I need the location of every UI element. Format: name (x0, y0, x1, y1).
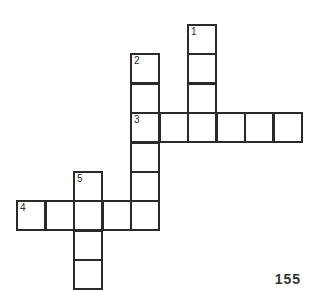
crossword-cell[interactable] (45, 200, 75, 231)
page-number: 155 (275, 271, 301, 287)
crossword-cell[interactable] (130, 142, 160, 173)
crossword-cell[interactable] (216, 112, 246, 143)
crossword-cell[interactable] (130, 83, 160, 114)
crossword-cell[interactable] (102, 200, 132, 231)
clue-number: 2 (134, 55, 140, 67)
clue-number: 1 (191, 26, 197, 38)
crossword-cell[interactable]: 2 (130, 53, 160, 84)
crossword-cell[interactable] (73, 200, 103, 231)
crossword-cell[interactable] (244, 112, 274, 143)
crossword-cell[interactable] (130, 200, 160, 231)
clue-number: 5 (77, 173, 83, 185)
crossword-cell[interactable] (73, 259, 103, 290)
crossword-cell[interactable] (273, 112, 303, 143)
crossword-cell[interactable] (159, 112, 189, 143)
crossword-cell[interactable] (187, 83, 217, 114)
crossword-cell[interactable]: 1 (187, 24, 217, 55)
crossword-cell[interactable]: 3 (130, 112, 160, 143)
crossword-cell[interactable]: 4 (16, 200, 46, 231)
crossword-cell[interactable]: 5 (73, 171, 103, 202)
crossword-cell[interactable] (130, 171, 160, 202)
crossword-cell[interactable] (187, 112, 217, 143)
crossword-cell[interactable] (187, 53, 217, 84)
clue-number: 3 (134, 114, 140, 126)
clue-number: 4 (20, 202, 26, 214)
crossword-cell[interactable] (73, 230, 103, 261)
